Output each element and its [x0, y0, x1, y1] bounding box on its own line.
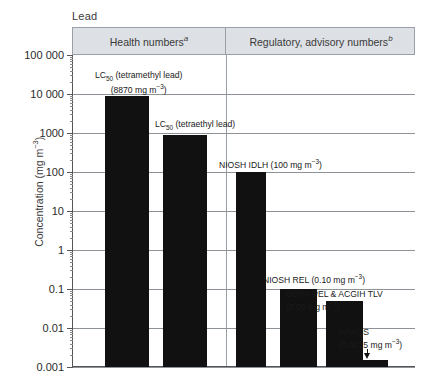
y-tick-major [67, 367, 73, 368]
y-tick-minor [70, 238, 74, 239]
y-tick-label: 10 [52, 205, 64, 217]
y-tick-minor [70, 344, 74, 345]
y-tick-minor [70, 259, 74, 260]
y-tick-minor [70, 137, 74, 138]
section-header-regulatory: Regulatory, advisory numbersb [226, 28, 416, 54]
y-tick-minor [70, 213, 74, 214]
y-tick-label: 10 000 [30, 88, 64, 100]
naaqs-pointer-arrow [367, 349, 368, 354]
y-tick-minor [70, 215, 74, 216]
y-tick-minor [70, 337, 74, 338]
y-tick-minor [70, 293, 74, 294]
annotation-niosh-rel: NIOSH REL (0.10 mg m−3) [263, 273, 365, 286]
y-tick-minor [70, 174, 74, 175]
y-tick-label: 0.1 [49, 283, 64, 295]
y-tick-minor [70, 142, 74, 143]
section-header-regulatory-note: b [388, 34, 392, 43]
y-tick-minor [70, 316, 74, 317]
y-tick-minor [70, 71, 74, 72]
y-tick-minor [70, 82, 74, 83]
y-tick-minor [70, 67, 74, 68]
y-tick-minor [70, 192, 74, 193]
plot-area: 100 00010 00010001001010.10.010.001LC50 … [72, 55, 415, 367]
y-tick-minor [70, 98, 74, 99]
bar-naaqs [346, 360, 388, 367]
y-tick-minor [70, 332, 74, 333]
y-axis-title: Concentration (mg m−3) [31, 92, 45, 292]
y-tick-minor [70, 254, 74, 255]
y-tick-minor [70, 145, 74, 146]
y-tick-minor [70, 330, 74, 331]
y-tick-minor [70, 139, 74, 140]
section-header-health-label: Health numbers [110, 36, 184, 48]
y-tick-minor [70, 334, 74, 335]
y-tick-minor [70, 160, 74, 161]
y-tick-minor [70, 184, 74, 185]
y-tick-minor [70, 64, 74, 65]
y-tick-minor [70, 176, 74, 177]
y-tick-minor [70, 309, 74, 310]
y-tick-minor [70, 340, 74, 341]
y-tick-minor [70, 227, 74, 228]
section-header-band: Health numbersa Regulatory, advisory num… [72, 27, 415, 55]
y-tick-minor [70, 256, 74, 257]
y-tick-minor [70, 220, 74, 221]
y-tick-label: 1000 [40, 127, 64, 139]
annotation-niosh-idlh: NIOSH IDLH (100 mg m−3) [219, 158, 322, 171]
y-tick-minor [70, 298, 74, 299]
annotation-osha-pel-acgih-tlv: OSHA PEL & ACGIH TLV(0.05 mg m−3) [286, 289, 383, 312]
y-tick-minor [70, 96, 74, 97]
y-tick-minor [70, 266, 74, 267]
gridline [73, 367, 415, 368]
y-tick-minor [70, 106, 74, 107]
section-header-regulatory-label: Regulatory, advisory numbers [249, 36, 388, 48]
y-tick-minor [70, 114, 74, 115]
y-tick-minor [70, 153, 74, 154]
y-tick-minor [70, 223, 74, 224]
y-tick-minor [70, 277, 74, 278]
y-tick-minor [70, 262, 74, 263]
y-tick-minor [70, 301, 74, 302]
annotation-lc50-tetraethyl: LC50 (tetraethyl lead) [155, 119, 235, 132]
y-tick-minor [70, 252, 74, 253]
y-tick-label: 0.001 [36, 361, 64, 373]
y-tick-minor [70, 348, 74, 349]
y-tick-minor [70, 61, 74, 62]
section-header-health-note: a [184, 34, 188, 43]
y-tick-minor [70, 355, 74, 356]
y-tick-minor [70, 199, 74, 200]
y-tick-minor [70, 291, 74, 292]
y-tick-minor [70, 75, 74, 76]
bar-lc50-tetraethyl-lead [163, 135, 207, 367]
y-tick-minor [70, 217, 74, 218]
bar-niosh-idlh [236, 172, 266, 367]
y-axis-title-exponent: −3 [31, 140, 40, 149]
figure-root: Lead Concentration (mg m−3) Health numbe… [0, 0, 434, 387]
y-tick-minor [70, 181, 74, 182]
y-tick-minor [70, 110, 74, 111]
section-header-health: Health numbersa [73, 28, 226, 54]
annotation-lc50-tetramethyl: LC50 (tetramethyl lead)(8870 mg m−3) [95, 70, 182, 95]
y-tick-minor [70, 305, 74, 306]
annotation-naaqs: NAAQS(0.0015 mg m−3) [339, 327, 402, 350]
y-tick-minor [70, 178, 74, 179]
y-tick-minor [70, 270, 74, 271]
y-tick-minor [70, 231, 74, 232]
figure-title: Lead [72, 10, 97, 22]
y-tick-minor [70, 295, 74, 296]
bar-lc50-tetramethyl-lead [105, 96, 149, 367]
y-tick-label: 100 000 [24, 49, 64, 61]
y-tick-minor [70, 59, 74, 60]
y-tick-label: 100 [46, 166, 64, 178]
y-tick-label: 1 [58, 244, 64, 256]
y-axis-title-text: Concentration (mg m [33, 149, 45, 247]
y-tick-label: 0.01 [43, 322, 64, 334]
y-tick-minor [70, 57, 74, 58]
y-tick-minor [70, 103, 74, 104]
y-tick-minor [70, 121, 74, 122]
y-tick-minor [70, 188, 74, 189]
y-tick-minor [70, 100, 74, 101]
y-tick-minor [70, 135, 74, 136]
plot-inner: 100 00010 00010001001010.10.010.001LC50 … [73, 55, 415, 366]
y-tick-minor [70, 149, 74, 150]
